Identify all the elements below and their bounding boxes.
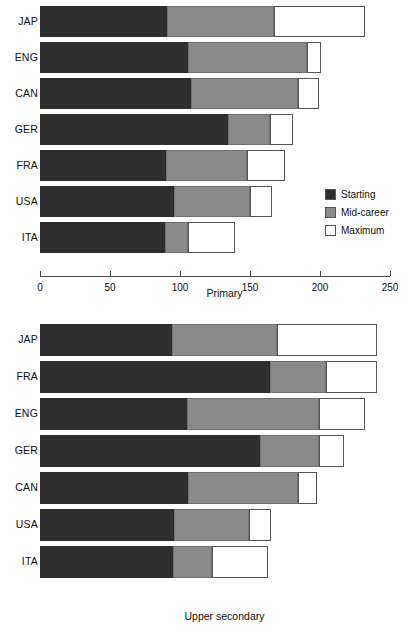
x-axis-tick bbox=[320, 271, 321, 276]
bar-segment-starting bbox=[40, 222, 165, 253]
legend-swatch-mid-career bbox=[325, 207, 336, 218]
bar-segment-mid-career bbox=[188, 42, 307, 73]
category-label-jap: JAP bbox=[0, 334, 38, 345]
bar-segment-starting bbox=[40, 472, 188, 504]
category-label-usa: USA bbox=[0, 519, 38, 530]
category-label-eng: ENG bbox=[0, 408, 38, 419]
bar-segment-maximum bbox=[319, 435, 344, 467]
bar-segment-maximum bbox=[277, 324, 378, 356]
bar-segment-mid-career bbox=[270, 361, 326, 393]
category-label-jap: JAP bbox=[0, 16, 38, 27]
bar-segment-starting bbox=[40, 361, 270, 393]
bar-segment-maximum bbox=[250, 186, 272, 217]
category-label-ita: ITA bbox=[0, 556, 38, 567]
bar-row: FRA bbox=[0, 150, 409, 181]
legend-item-mid-career: Mid-career bbox=[325, 204, 409, 220]
bar-track bbox=[40, 42, 321, 73]
bar-segment-maximum bbox=[188, 222, 234, 253]
bar-segment-maximum bbox=[247, 150, 285, 181]
x-axis-tick bbox=[390, 271, 391, 276]
bar-segment-mid-career bbox=[174, 186, 250, 217]
bar-segment-mid-career bbox=[191, 78, 297, 109]
bar-segment-maximum bbox=[298, 472, 318, 504]
category-label-ger: GER bbox=[0, 124, 38, 135]
bar-segment-maximum bbox=[326, 361, 378, 393]
bar-segment-mid-career bbox=[167, 6, 273, 37]
bar-row: ITA bbox=[0, 546, 409, 578]
bar-segment-maximum bbox=[274, 6, 365, 37]
bar-segment-mid-career bbox=[166, 150, 247, 181]
bar-track bbox=[40, 435, 344, 467]
legend-swatch-starting bbox=[325, 189, 336, 200]
bar-track bbox=[40, 324, 377, 356]
bar-row: CAN bbox=[0, 78, 409, 109]
x-axis-tick bbox=[110, 271, 111, 276]
bar-segment-maximum bbox=[298, 78, 319, 109]
bar-track bbox=[40, 472, 317, 504]
bar-segment-starting bbox=[40, 150, 166, 181]
bar-segment-mid-career bbox=[172, 324, 277, 356]
bar-segment-mid-career bbox=[260, 435, 319, 467]
category-label-can: CAN bbox=[0, 88, 38, 99]
x-axis-tick bbox=[250, 271, 251, 276]
category-label-usa: USA bbox=[0, 196, 38, 207]
bar-segment-starting bbox=[40, 509, 174, 541]
bar-row: GER bbox=[0, 114, 409, 145]
legend: Starting Mid-career Maximum bbox=[325, 186, 409, 240]
bar-segment-maximum bbox=[249, 509, 271, 541]
bar-row: CAN bbox=[0, 472, 409, 504]
category-label-ger: GER bbox=[0, 445, 38, 456]
bar-track bbox=[40, 361, 377, 393]
chart-panel-upper-secondary: JAPFRAENGGERCANUSAITA050100150200250 Upp… bbox=[0, 310, 409, 632]
bar-segment-starting bbox=[40, 546, 173, 578]
bar-track bbox=[40, 6, 365, 37]
legend-item-starting: Starting bbox=[325, 186, 409, 202]
bar-row: ENG bbox=[0, 398, 409, 430]
bar-segment-starting bbox=[40, 398, 187, 430]
x-axis-tick bbox=[40, 271, 41, 276]
category-label-ita: ITA bbox=[0, 232, 38, 243]
x-axis-title-upper-secondary: Upper secondary bbox=[0, 610, 409, 622]
bar-segment-starting bbox=[40, 435, 260, 467]
bar-segment-mid-career bbox=[165, 222, 189, 253]
legend-label-mid-career: Mid-career bbox=[341, 207, 389, 218]
bar-segment-starting bbox=[40, 186, 174, 217]
bar-segment-starting bbox=[40, 78, 191, 109]
category-label-fra: FRA bbox=[0, 160, 38, 171]
bar-row: JAP bbox=[0, 324, 409, 356]
chart-panel-primary: JAPENGCANGERFRAUSAITA050100150200250 Sta… bbox=[0, 0, 409, 310]
bar-row: GER bbox=[0, 435, 409, 467]
bar-track bbox=[40, 114, 293, 145]
bar-segment-starting bbox=[40, 114, 228, 145]
bar-segment-starting bbox=[40, 324, 172, 356]
bar-row: USA bbox=[0, 509, 409, 541]
x-axis-tick bbox=[180, 271, 181, 276]
bar-track bbox=[40, 78, 319, 109]
bar-track bbox=[40, 222, 235, 253]
legend-label-maximum: Maximum bbox=[341, 225, 384, 236]
bar-segment-maximum bbox=[270, 114, 294, 145]
bar-segment-mid-career bbox=[188, 472, 297, 504]
legend-swatch-maximum bbox=[325, 225, 336, 236]
bar-track bbox=[40, 546, 268, 578]
bar-segment-starting bbox=[40, 6, 167, 37]
bar-row: ENG bbox=[0, 42, 409, 73]
bar-row: JAP bbox=[0, 6, 409, 37]
legend-label-starting: Starting bbox=[341, 189, 375, 200]
category-label-fra: FRA bbox=[0, 371, 38, 382]
bar-track bbox=[40, 509, 271, 541]
bar-segment-maximum bbox=[319, 398, 365, 430]
category-label-eng: ENG bbox=[0, 52, 38, 63]
x-axis-title-primary: Primary bbox=[0, 287, 409, 299]
bar-track bbox=[40, 150, 285, 181]
x-axis-title-primary-text: Primary bbox=[206, 287, 242, 299]
bar-segment-mid-career bbox=[187, 398, 319, 430]
x-axis-title-upper-secondary-text: Upper secondary bbox=[185, 610, 265, 622]
bar-track bbox=[40, 398, 365, 430]
bar-track bbox=[40, 186, 272, 217]
bar-segment-mid-career bbox=[228, 114, 270, 145]
bar-segment-mid-career bbox=[174, 509, 248, 541]
category-label-can: CAN bbox=[0, 482, 38, 493]
bar-segment-maximum bbox=[307, 42, 321, 73]
x-axis-line bbox=[40, 276, 390, 277]
